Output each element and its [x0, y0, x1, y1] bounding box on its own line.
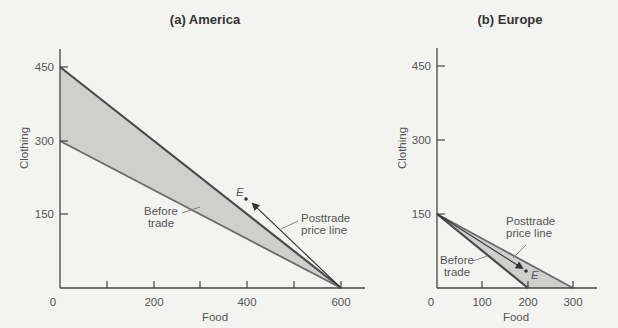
- annotation-posttrade: price line: [506, 227, 552, 239]
- annotation-before-trade: trade: [148, 217, 174, 229]
- x-ticks: [107, 281, 341, 288]
- annotation-posttrade: Posttrade: [506, 215, 555, 227]
- y-tick-label: 150: [35, 208, 54, 220]
- x-axis-label: Food: [202, 311, 228, 323]
- posttrade-leader: [281, 221, 298, 229]
- y-axis-label: Clothing: [18, 127, 30, 169]
- y-tick-label: 450: [412, 60, 431, 72]
- equilibrium-point-e: [524, 269, 528, 273]
- figure: (a) America E 450 300 150: [0, 0, 618, 328]
- x-tick-label: 200: [518, 296, 537, 308]
- x-tick-label: 300: [563, 296, 582, 308]
- chart-svg: (a) America E 450 300 150: [0, 0, 618, 328]
- annotation-before-trade: Before: [440, 254, 474, 266]
- x-tick-label: 0: [428, 296, 434, 308]
- annotation-posttrade: Posttrade: [301, 212, 350, 224]
- y-ticks: [437, 66, 445, 214]
- y-tick-label: 450: [35, 61, 54, 73]
- upper-frontier-line: [60, 67, 341, 288]
- annotation-before-trade: Before: [144, 205, 178, 217]
- annotation-before-trade: trade: [444, 266, 470, 278]
- y-axis-label: Clothing: [396, 127, 408, 169]
- y-tick-label: 300: [412, 134, 431, 146]
- chart-europe: (b) Europe E 450 300 150 0 100: [396, 12, 597, 323]
- x-tick-label: 400: [237, 296, 256, 308]
- point-label-e: E: [236, 186, 244, 198]
- x-tick-label: 0: [50, 296, 56, 308]
- before-trade-line: [60, 141, 341, 288]
- posttrade-leader: [513, 245, 526, 258]
- point-label-e: E: [531, 269, 539, 281]
- before-trade-leader: [473, 256, 487, 261]
- chart-title-america: (a) America: [170, 12, 241, 27]
- y-tick-label: 300: [35, 135, 54, 147]
- chart-title-europe: (b) Europe: [478, 12, 543, 27]
- x-tick-label: 100: [472, 296, 491, 308]
- chart-america: (a) America E 450 300 150: [18, 12, 365, 323]
- x-axis-label: Food: [503, 311, 529, 323]
- y-tick-label: 150: [412, 208, 431, 220]
- x-tick-label: 200: [144, 296, 163, 308]
- annotation-posttrade: price line: [301, 224, 347, 236]
- equilibrium-point-e: [244, 197, 248, 201]
- x-tick-label: 600: [331, 296, 350, 308]
